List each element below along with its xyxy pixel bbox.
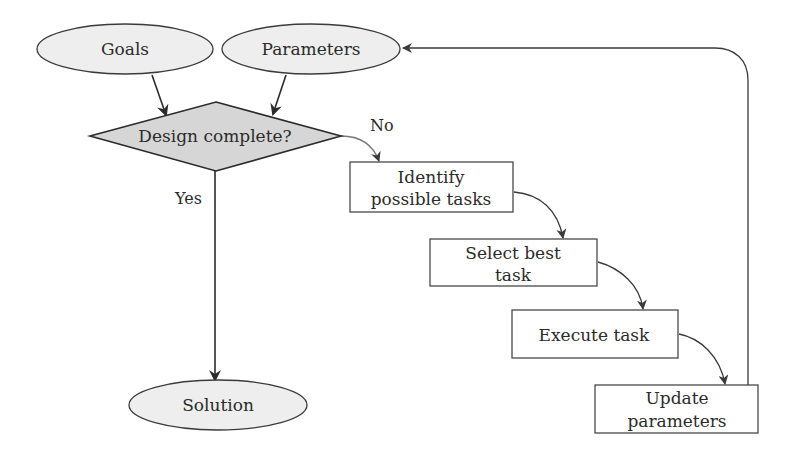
node-decision-label: Design complete? [138, 126, 291, 146]
node-goals[interactable]: Goals [37, 24, 213, 74]
node-update-line1: Update [645, 388, 708, 408]
node-execute[interactable]: Execute task [512, 310, 678, 358]
node-identify-line1: Identify [398, 167, 465, 187]
edge-decision-to-identify [341, 136, 379, 161]
edge-label-yes: Yes [174, 189, 202, 208]
edge-parameters-to-decision [273, 75, 286, 114]
edge-goals-to-decision [152, 75, 166, 115]
node-goals-label: Goals [101, 39, 149, 59]
node-update[interactable]: Update parameters [595, 385, 758, 433]
node-parameters-label: Parameters [262, 39, 361, 59]
node-decision[interactable]: Design complete? [90, 102, 341, 171]
edge-execute-to-update [679, 334, 725, 384]
node-solution[interactable]: Solution [129, 380, 307, 430]
node-parameters[interactable]: Parameters [222, 24, 400, 74]
node-solution-label: Solution [182, 395, 254, 415]
node-execute-label: Execute task [539, 325, 651, 345]
node-select-line1: Select best [465, 243, 561, 263]
node-identify-line2: possible tasks [371, 189, 492, 209]
edge-identify-to-select [514, 192, 563, 238]
node-select[interactable]: Select best task [430, 239, 597, 286]
edge-select-to-execute [598, 262, 643, 309]
node-identify[interactable]: Identify possible tasks [350, 162, 513, 212]
edge-label-no: No [370, 116, 394, 135]
node-update-line2: parameters [627, 411, 726, 431]
flowchart-canvas: No Yes Goals Parameters Design complete?… [0, 0, 797, 458]
node-select-line2: task [495, 265, 532, 285]
